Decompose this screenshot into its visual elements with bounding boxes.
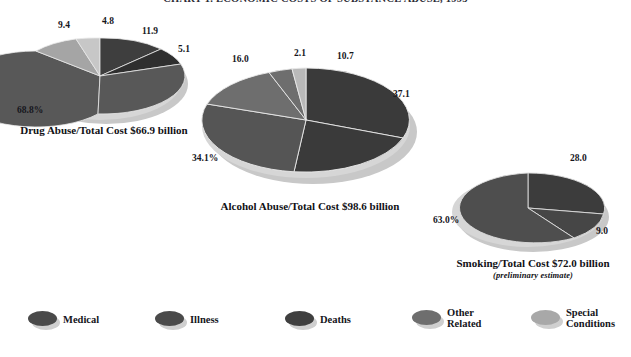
legend-swatch-illness-icon [155, 311, 185, 328]
legend-item-special-conditions[interactable]: Special Conditions [531, 307, 615, 330]
legend-label-other-related: Other Related [447, 307, 481, 330]
pie-chart-drug-abuse: 9.4 4.8 11.9 5.1 68.8% [14, 22, 190, 122]
data-label-alcohol-16-0: 16.0 [232, 55, 249, 65]
pie-alcohol-abuse-svg [196, 52, 416, 182]
caption-smoking-main: Smoking/Total Cost $72.0 billion [456, 257, 609, 269]
data-label-alcohol-37-1: 37.1 [393, 90, 410, 100]
data-label-drug-11-9: 11.9 [142, 27, 158, 37]
legend-label-special-conditions: Special Conditions [566, 307, 615, 330]
data-label-drug-68-8: 68.8% [17, 106, 43, 116]
caption-alcohol-abuse: Alcohol Abuse/Total Cost $98.6 billion [196, 200, 424, 213]
caption-smoking: Smoking/Total Cost $72.0 billion (prelim… [440, 257, 626, 280]
caption-smoking-sub: (preliminary estimate) [440, 271, 626, 281]
legend-label-medical: Medical [63, 314, 99, 325]
legend-swatch-other-related-icon [412, 310, 442, 327]
legend-label-deaths: Deaths [320, 314, 351, 325]
caption-drug-abuse: Drug Abuse/Total Cost $66.9 billion [14, 124, 194, 137]
data-label-drug-9-4: 9.4 [58, 21, 70, 31]
data-label-drug-5-1: 5.1 [178, 45, 190, 55]
slice-medical [528, 173, 605, 214]
page-title: CHART 1. ECONOMIC COSTS OF SUBSTANCE ABU… [0, 0, 631, 4]
legend-swatch-deaths-icon [285, 311, 315, 328]
pie-smoking-svg [448, 160, 614, 256]
data-label-smoking-9-0: 9.0 [596, 227, 608, 237]
legend-item-illness[interactable]: Illness [155, 311, 219, 328]
data-label-smoking-28-0: 28.0 [570, 154, 587, 164]
legend-label-illness: Illness [190, 314, 219, 325]
data-label-alcohol-2-1: 2.1 [294, 49, 306, 59]
legend-swatch-special-conditions-icon [531, 310, 561, 327]
chart-page: CHART 1. ECONOMIC COSTS OF SUBSTANCE ABU… [0, 0, 631, 357]
pie-slices [459, 173, 604, 243]
legend-item-other-related[interactable]: Other Related [412, 307, 481, 330]
data-label-drug-4-8: 4.8 [102, 17, 114, 27]
legend-swatch-medical-icon [28, 311, 58, 328]
legend-item-medical[interactable]: Medical [28, 311, 99, 328]
chart-legend: Medical Illness Deaths Other Related [0, 305, 631, 345]
pie-chart-smoking: 28.0 9.0 63.0% [448, 160, 614, 256]
data-label-alcohol-34-1: 34.1% [192, 154, 218, 164]
legend-item-deaths[interactable]: Deaths [285, 311, 351, 328]
pie-chart-alcohol-abuse: 16.0 2.1 10.7 37.1 34.1% [196, 52, 416, 182]
data-label-alcohol-10-7: 10.7 [337, 52, 354, 62]
pie-slices [202, 68, 410, 172]
data-label-smoking-63-0: 63.0% [433, 216, 459, 226]
